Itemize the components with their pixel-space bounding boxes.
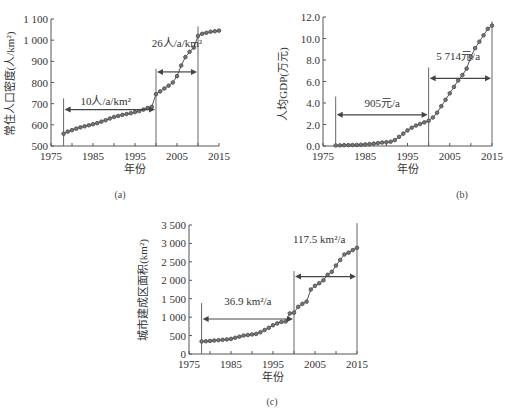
data-point xyxy=(456,79,460,83)
data-point xyxy=(121,113,125,117)
data-point xyxy=(380,141,384,145)
y-tick-label: 1 500 xyxy=(161,293,186,305)
data-point xyxy=(275,322,279,326)
arrow-head-right-icon xyxy=(422,112,428,118)
data-point xyxy=(213,29,217,33)
x-tick-label: 1995 xyxy=(397,150,420,162)
data-point xyxy=(171,81,175,85)
data-point xyxy=(330,270,334,274)
data-point xyxy=(482,33,486,37)
chart-a-population-density: 5006007008009001 0001 100197519851995200… xyxy=(3,13,231,201)
x-tick-label: 1995 xyxy=(262,358,285,370)
data-point xyxy=(334,144,338,148)
data-point xyxy=(229,337,233,341)
data-point xyxy=(79,126,83,130)
data-point xyxy=(133,110,137,114)
data-point xyxy=(116,114,120,118)
growth-rate-annotation: 5 714元/a xyxy=(436,50,480,62)
data-point xyxy=(250,333,254,337)
arrow-head-left-icon xyxy=(430,75,436,81)
data-point xyxy=(376,141,380,145)
data-point xyxy=(423,121,427,125)
data-point xyxy=(322,278,326,282)
data-point xyxy=(254,332,258,336)
arrow-head-right-icon xyxy=(191,69,197,75)
x-tick-label: 2005 xyxy=(439,150,462,162)
data-point xyxy=(280,320,284,324)
x-tick-label: 2005 xyxy=(166,150,189,162)
data-point xyxy=(267,326,271,330)
data-point xyxy=(490,24,494,28)
y-tick-label: 500 xyxy=(170,330,187,342)
data-point xyxy=(431,116,435,120)
data-point xyxy=(410,126,414,130)
y-tick-label: 2.0 xyxy=(306,119,320,131)
data-point xyxy=(205,31,209,35)
data-point xyxy=(385,140,389,144)
growth-rate-annotation: 36.9 km²/a xyxy=(224,295,271,307)
data-point xyxy=(351,143,355,147)
x-tick-label: 1975 xyxy=(40,150,63,162)
data-point xyxy=(217,29,221,33)
data-point xyxy=(418,122,422,126)
x-tick-label: 2005 xyxy=(304,358,327,370)
data-point xyxy=(355,246,359,250)
data-point xyxy=(342,143,346,147)
data-point xyxy=(158,90,162,94)
data-point xyxy=(225,338,229,342)
chart-b-gdp-per-capita: 0.02.04.06.08.010.012.019751985199520052… xyxy=(277,11,504,201)
arrow-head-right-icon xyxy=(350,274,356,280)
data-point xyxy=(440,104,444,108)
data-point xyxy=(263,328,267,332)
data-point xyxy=(129,111,133,115)
arrow-head-left-icon xyxy=(203,316,209,322)
data-point xyxy=(62,132,66,136)
x-tick-label: 1985 xyxy=(220,358,243,370)
arrow-head-right-icon xyxy=(485,75,491,81)
data-point xyxy=(246,333,250,337)
data-point xyxy=(389,140,393,144)
y-tick-label: 1 000 xyxy=(161,311,186,323)
data-point xyxy=(125,112,129,116)
y-tick-label: 12.0 xyxy=(301,11,321,23)
y-tick-label: 3 500 xyxy=(161,219,186,231)
data-point xyxy=(461,73,465,77)
x-axis-label: 年份 xyxy=(262,370,284,383)
data-point xyxy=(104,118,108,122)
y-tick-label: 600 xyxy=(32,119,49,131)
subfigure-caption: (b) xyxy=(456,189,468,201)
data-point xyxy=(296,305,300,309)
data-point xyxy=(221,338,225,342)
x-tick-label: 1985 xyxy=(354,150,377,162)
subfigure-caption: (c) xyxy=(266,396,277,408)
data-point xyxy=(242,334,246,338)
data-point xyxy=(478,40,482,44)
x-axis-label: 年份 xyxy=(124,162,146,175)
data-point xyxy=(301,302,305,306)
data-point xyxy=(233,336,237,340)
data-point xyxy=(401,132,405,136)
data-point xyxy=(70,128,74,132)
x-tick-label: 1985 xyxy=(82,150,105,162)
data-point xyxy=(309,288,313,292)
data-point xyxy=(414,124,418,128)
data-point xyxy=(406,129,410,133)
x-tick-label: 1995 xyxy=(124,150,147,162)
data-point xyxy=(448,92,452,96)
growth-rate-annotation: 117.5 km²/a xyxy=(293,233,346,245)
growth-rate-annotation: 10人/a/km² xyxy=(80,95,131,107)
arrow-head-left-icon xyxy=(157,69,163,75)
data-point xyxy=(347,143,351,147)
data-point xyxy=(175,74,179,78)
data-point xyxy=(212,339,216,343)
data-point xyxy=(271,323,275,327)
data-point xyxy=(66,130,70,134)
growth-rate-annotation: 26人/a/km² xyxy=(152,37,203,49)
arrow-head-right-icon xyxy=(287,316,293,322)
data-point xyxy=(292,311,296,315)
data-point xyxy=(95,121,99,125)
data-point xyxy=(338,258,342,262)
data-point xyxy=(100,120,104,124)
data-point xyxy=(200,340,204,344)
y-tick-label: 8.0 xyxy=(306,54,320,66)
